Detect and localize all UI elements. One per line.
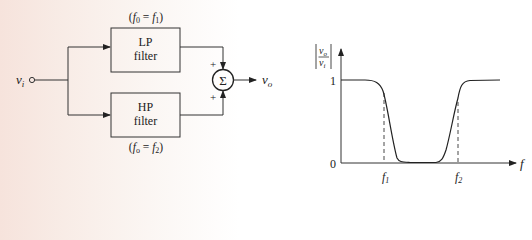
x-tick-f1: f1 xyxy=(382,170,389,185)
sigma-symbol: Σ xyxy=(219,73,227,88)
y-tick-1: 1 xyxy=(330,74,336,88)
y-tick-0: 0 xyxy=(330,157,336,171)
hp-cutoff-label: (fo = f2) xyxy=(129,141,164,155)
lp-output-arrow xyxy=(180,47,223,69)
block-diagram: vi LP filter (f0 = f1) HP filter (fo = f… xyxy=(16,11,273,155)
summer-sign-top: + xyxy=(210,58,216,70)
lp-filter-label-line2: filter xyxy=(134,49,157,63)
hp-filter-label-line2: filter xyxy=(134,114,157,128)
magnitude-response-plot: vo vi 1 0 f1 f2 f xyxy=(316,44,526,185)
lp-cutoff-label: (f0 = f1) xyxy=(129,11,164,25)
hp-output-arrow xyxy=(180,91,223,115)
y-axis-label: vo vi xyxy=(316,44,331,70)
notch-filter-figure: vi LP filter (f0 = f1) HP filter (fo = f… xyxy=(0,0,532,188)
lp-filter-label-line1: LP xyxy=(138,35,152,49)
input-label: vi xyxy=(16,72,25,89)
output-label: vo xyxy=(262,72,273,89)
svg-text:vi: vi xyxy=(319,57,325,70)
x-tick-f2: f2 xyxy=(455,170,462,185)
magnitude-response-curve xyxy=(341,80,500,163)
x-axis-label: f xyxy=(520,156,526,171)
input-terminal-icon xyxy=(29,77,34,82)
hp-filter-label-line1: HP xyxy=(138,100,154,114)
summer-sign-bottom: + xyxy=(210,91,216,103)
